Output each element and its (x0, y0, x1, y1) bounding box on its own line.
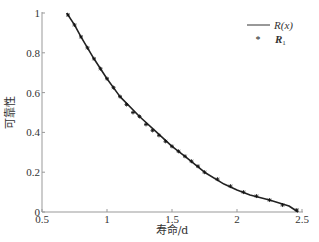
star-marker (255, 194, 259, 198)
star-marker (268, 198, 272, 202)
legend-label-r1: R1 (274, 33, 286, 47)
star-marker (86, 46, 90, 50)
legend-label-rx: R(x) (273, 19, 293, 32)
star-marker (99, 67, 103, 71)
series (66, 13, 299, 212)
y-tick-label: 0.6 (26, 87, 40, 99)
star-marker (118, 95, 122, 99)
star-marker (157, 133, 161, 137)
y-axis-title: 可靠性 (3, 96, 17, 129)
star-marker (164, 139, 168, 143)
star-marker (190, 159, 194, 163)
legend-label-r1-sub: 1 (282, 39, 286, 47)
y-tick-label: 0.8 (26, 47, 40, 59)
star-marker (216, 177, 220, 181)
star-marker (196, 164, 200, 168)
star-marker (203, 170, 207, 174)
star-marker (138, 114, 142, 118)
star-marker (92, 57, 96, 61)
y-tick-label: 0.2 (26, 166, 40, 178)
legend-star-icon: * (256, 34, 261, 45)
star-marker (177, 149, 181, 153)
star-marker (170, 144, 174, 148)
star-marker (79, 35, 83, 39)
star-marker (229, 184, 233, 188)
star-marker (183, 154, 187, 158)
x-ticks: 0.511.522.5 (35, 209, 309, 225)
y-tick-label: 0 (35, 206, 41, 218)
star-marker (131, 111, 135, 115)
legend: R(x) * R1 (247, 19, 293, 47)
star-marker (112, 86, 116, 90)
star-marker (151, 128, 155, 132)
y-tick-label: 1 (35, 7, 41, 19)
x-tick-label: 1 (104, 213, 110, 225)
star-marker (144, 122, 148, 126)
x-tick-label: 2 (234, 213, 240, 225)
series-line-rx (67, 13, 298, 212)
star-marker (105, 77, 109, 81)
legend-label-r1-main: R (274, 33, 282, 45)
star-marker (66, 13, 70, 17)
x-tick-label: 2.5 (295, 213, 309, 225)
star-marker (295, 208, 299, 212)
star-marker (242, 190, 246, 194)
star-marker (281, 203, 285, 207)
star-marker (125, 103, 129, 107)
axes (42, 12, 303, 212)
reliability-chart: 0.511.522.5 00.20.40.60.81 寿命/d 可靠性 R(x)… (0, 0, 319, 242)
x-axis-title: 寿命/d (156, 223, 189, 237)
star-marker (73, 23, 77, 27)
y-tick-label: 0.4 (26, 126, 40, 138)
